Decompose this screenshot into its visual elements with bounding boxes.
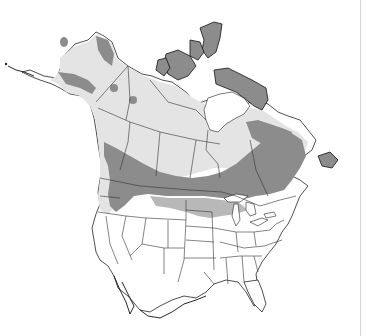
dark-range-spot-1 bbox=[60, 37, 68, 47]
right-edge-rule bbox=[360, 0, 361, 336]
north-america-map-svg bbox=[0, 0, 367, 336]
aleutian-dot bbox=[5, 63, 7, 65]
newfoundland bbox=[318, 152, 338, 168]
arctic-island-devon bbox=[190, 40, 204, 60]
florida bbox=[244, 280, 266, 312]
range-map bbox=[0, 0, 367, 336]
